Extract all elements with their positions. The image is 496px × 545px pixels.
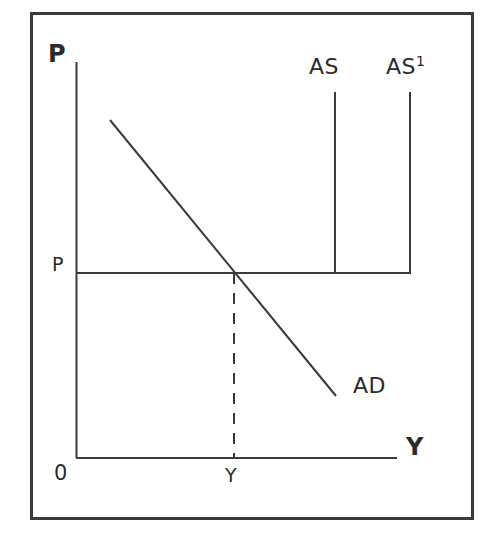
- aggregate-supply-label: AS: [309, 56, 339, 78]
- as-shifted-superscript: 1: [416, 53, 425, 69]
- vertical-axis-label: P: [48, 42, 66, 66]
- equilibrium-price-label: P: [52, 255, 63, 274]
- aggregate-demand-label: AD: [353, 375, 386, 397]
- diagram-svg: [0, 0, 496, 545]
- as-shifted-base-text: AS: [386, 54, 416, 79]
- horizontal-axis-label: Y: [406, 435, 424, 459]
- origin-label: 0: [54, 463, 67, 484]
- diagram-canvas: P Y 0 P Y AS AS1 AD: [0, 0, 496, 545]
- aggregate-supply-shifted-label: AS1: [386, 56, 425, 78]
- equilibrium-output-label: Y: [225, 466, 237, 485]
